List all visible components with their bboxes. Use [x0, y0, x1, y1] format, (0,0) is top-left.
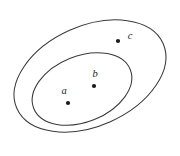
inner-set-ellipse	[21, 39, 142, 139]
point-b-dot	[92, 84, 96, 88]
point-b-label: b	[92, 68, 97, 79]
point-c-dot	[116, 39, 120, 43]
point-a-label: a	[61, 85, 66, 96]
outer-set-ellipse	[0, 0, 180, 154]
euler-diagram-canvas: c b a	[0, 0, 180, 156]
point-a-group: a	[61, 85, 70, 105]
point-c-group: c	[116, 30, 133, 43]
point-a-dot	[66, 101, 70, 105]
euler-diagram-svg: c b a	[0, 0, 180, 156]
point-c-label: c	[128, 30, 133, 41]
point-b-group: b	[92, 68, 98, 88]
